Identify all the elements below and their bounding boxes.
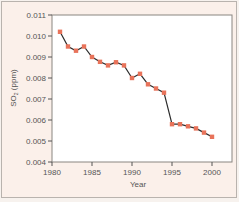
y-tick-label: 0.005	[26, 137, 47, 146]
so2-line-chart: 0.0040.0050.0060.0070.0080.0090.0100.011…	[0, 0, 239, 202]
data-point	[170, 122, 174, 126]
y-tick-label: 0.007	[26, 95, 47, 104]
data-point	[186, 124, 190, 128]
data-point	[98, 60, 102, 64]
data-point	[114, 60, 118, 64]
y-tick-label: 0.011	[27, 11, 47, 20]
data-point	[82, 44, 86, 48]
data-point	[202, 130, 206, 134]
data-point	[194, 126, 198, 130]
x-axis-title: Year	[130, 180, 147, 189]
x-tick-label: 1980	[43, 168, 61, 177]
x-axis: 19801985199019952000	[43, 162, 221, 177]
y-tick-label: 0.009	[26, 53, 47, 62]
y-axis: 0.0040.0050.0060.0070.0080.0090.0100.011	[26, 11, 52, 167]
data-point	[146, 82, 150, 86]
data-point	[154, 86, 158, 90]
y-tick-label: 0.010	[26, 32, 47, 41]
data-point	[210, 135, 214, 139]
y-axis-title: SO2 (ppm)	[9, 69, 19, 107]
data-point	[122, 63, 126, 67]
data-point	[162, 91, 166, 95]
x-tick-label: 2000	[203, 168, 221, 177]
y-tick-label: 0.006	[26, 116, 47, 125]
x-tick-label: 1985	[83, 168, 101, 177]
plot-area	[52, 15, 232, 162]
x-tick-label: 1995	[163, 168, 181, 177]
data-point	[130, 76, 134, 80]
data-point	[58, 30, 62, 34]
y-tick-label: 0.008	[26, 74, 47, 83]
data-point	[178, 122, 182, 126]
x-tick-label: 1990	[123, 168, 141, 177]
data-point	[90, 55, 94, 59]
data-point	[74, 49, 78, 53]
y-tick-label: 0.004	[26, 158, 47, 167]
data-point	[106, 63, 110, 67]
data-point	[138, 72, 142, 76]
data-point	[66, 44, 70, 48]
